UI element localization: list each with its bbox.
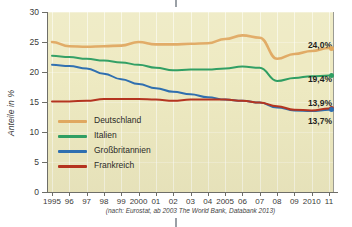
end-dot-großbritannien (329, 107, 334, 112)
x-axis-tick (329, 192, 330, 196)
x-axis-tick (277, 192, 278, 196)
y-axis-tick-label: 10 (15, 128, 39, 137)
end-label-deutschland: 24,0% (288, 40, 332, 50)
y-axis-tick (42, 42, 48, 43)
legend-swatch-italien (58, 135, 87, 138)
x-axis-tick-label: 11 (323, 197, 335, 206)
legend-label: Großbritannien (94, 145, 151, 155)
legend-swatch-deutschland (58, 120, 87, 123)
end-label-italien: 19,4% (288, 74, 332, 84)
legend-item: Frankreich (58, 159, 198, 174)
y-axis-tick-label: 30 (15, 8, 39, 17)
x-axis-tick-label: 09 (288, 197, 300, 206)
x-axis-tick (139, 192, 140, 196)
x-axis-tick-label: 98 (98, 197, 110, 206)
y-axis-tick (42, 102, 48, 103)
end-dot-deutschland (329, 46, 334, 51)
x-axis-tick-label: 06 (236, 197, 248, 206)
y-axis-tick-label: 20 (15, 68, 39, 77)
x-axis-tick-label: 08 (271, 197, 283, 206)
legend-item: Italien (58, 129, 198, 144)
legend-label: Frankreich (94, 160, 134, 170)
x-axis-tick (156, 192, 157, 196)
y-axis-tick (42, 12, 48, 13)
x-axis-tick-label: 97 (81, 197, 93, 206)
x-axis-tick-label: 2005 (214, 197, 236, 206)
x-axis-tick (294, 192, 295, 196)
legend-item: Deutschland (58, 114, 198, 129)
chart-legend: DeutschlandItalienGroßbritannienFrankrei… (58, 114, 198, 174)
y-axis-tick (42, 162, 48, 163)
x-axis-tick (121, 192, 122, 196)
end-label-großbritannien: 13,7% (288, 116, 332, 126)
x-axis-tick (260, 192, 261, 196)
y-axis-tick-label: 0 (15, 188, 39, 197)
x-axis-tick-label: 1995 (41, 197, 63, 206)
y-axis-tick (42, 192, 48, 193)
x-axis-tick (104, 192, 105, 196)
crop-mark-bottom (175, 218, 177, 227)
x-axis-tick (208, 192, 209, 196)
x-axis-tick-label: 2010 (301, 197, 323, 206)
source-note: (nach: Eurostat, ab 2003 The World Bank,… (48, 207, 333, 214)
y-axis-tick-label: 25 (15, 38, 39, 47)
x-axis-tick (242, 192, 243, 196)
y-axis-tick (42, 132, 48, 133)
x-axis-tick (312, 192, 313, 196)
x-axis-tick-label: 04 (202, 197, 214, 206)
x-axis-tick (225, 192, 226, 196)
x-axis-tick (69, 192, 70, 196)
x-axis-tick-label: 99 (115, 197, 127, 206)
x-axis-tick (191, 192, 192, 196)
chart-page: Anteile in % 051015202530 19959697989920… (0, 0, 352, 227)
y-axis-tick-label: 5 (15, 158, 39, 167)
end-dot-italien (329, 73, 334, 78)
x-axis-tick-label: 07 (254, 197, 266, 206)
legend-label: Italien (94, 130, 117, 140)
legend-swatch-großbritannien (58, 150, 87, 153)
legend-label: Deutschland (94, 115, 141, 125)
crop-mark-top (175, 0, 177, 7)
legend-item: Großbritannien (58, 144, 198, 159)
x-axis-tick (173, 192, 174, 196)
y-axis-tick (42, 72, 48, 73)
x-axis-tick-label: 2000 (128, 197, 150, 206)
x-axis-tick (87, 192, 88, 196)
end-label-frankreich: 13,9% (288, 98, 332, 108)
legend-swatch-frankreich (58, 165, 87, 168)
x-axis-tick-label: 96 (63, 197, 75, 206)
x-axis-tick-label: 03 (185, 197, 197, 206)
x-axis-tick-label: 02 (167, 197, 179, 206)
y-axis-tick-label: 15 (15, 98, 39, 107)
x-axis-tick (52, 192, 53, 196)
x-axis-tick-label: 01 (150, 197, 162, 206)
